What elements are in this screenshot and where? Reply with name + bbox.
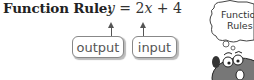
cartoon-mascot: Functio Rules	[200, 0, 254, 80]
rule-label: Function Rule:	[3, 0, 112, 16]
output-arrow-line	[111, 27, 112, 36]
svg-text:Rules: Rules	[227, 20, 253, 31]
input-label-box: input	[132, 36, 177, 58]
output-variable: y	[107, 0, 115, 16]
output-label-box: output	[72, 36, 124, 58]
thought-bubble-icon: Functio Rules	[200, 0, 254, 80]
function-equation: y = 2x + 4	[107, 0, 182, 16]
svg-text:Functio: Functio	[221, 9, 254, 20]
input-arrow-line	[143, 27, 144, 36]
